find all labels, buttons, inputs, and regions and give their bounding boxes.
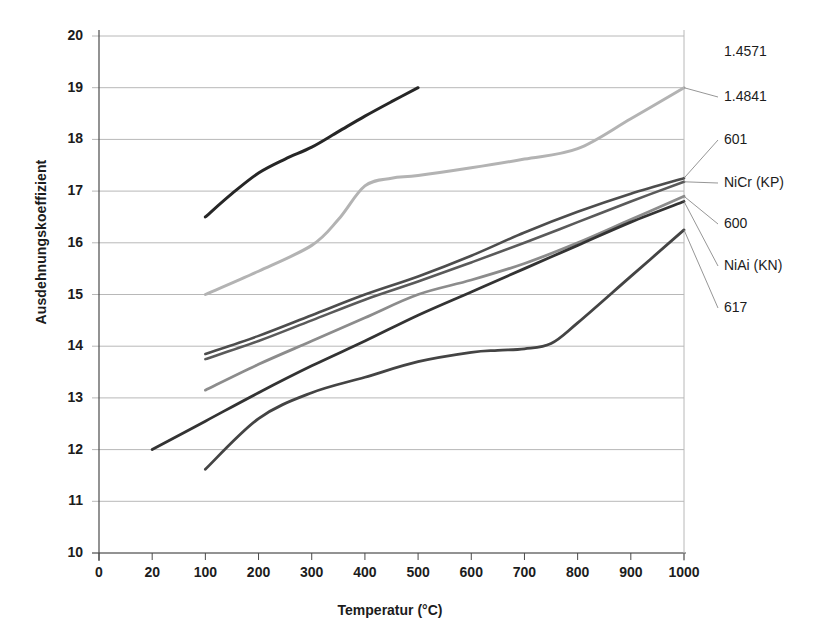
- leader-line: [684, 196, 718, 224]
- series-label-niai-kn: NiAi (KN): [724, 257, 782, 273]
- y-tick-label: 12: [43, 441, 83, 457]
- x-tick-label: 100: [175, 564, 235, 580]
- series-line-601: [205, 178, 684, 354]
- y-tick-label: 20: [43, 27, 83, 43]
- x-tick-label: 400: [335, 564, 395, 580]
- y-tick-label: 13: [43, 389, 83, 405]
- series-line-nicr-kp: [205, 182, 684, 359]
- gridlines: [92, 36, 684, 553]
- leader-line: [684, 230, 718, 308]
- series-label-1-4571: 1.4571: [724, 43, 767, 59]
- y-tick-label: 19: [43, 79, 83, 95]
- y-tick-label: 16: [43, 234, 83, 250]
- axis-lines: [92, 30, 686, 561]
- leader-line: [684, 201, 718, 266]
- x-tick-label: 1000: [654, 564, 714, 580]
- leader-line: [684, 182, 718, 183]
- series-label-1-4841: 1.4841: [724, 88, 767, 104]
- series-line-niai-kn: [152, 201, 684, 449]
- series-label-601: 601: [724, 131, 747, 147]
- x-tick-label: 900: [601, 564, 661, 580]
- series-label-600: 600: [724, 215, 747, 231]
- x-axis-title: Temperatur (°C): [180, 602, 600, 618]
- chart-root: Ausdehnungskoeffizient Temperatur (°C) 1…: [0, 0, 822, 642]
- data-series-group: [152, 88, 684, 470]
- x-tick-label: 300: [282, 564, 342, 580]
- y-tick-label: 17: [43, 182, 83, 198]
- leader-line: [684, 88, 718, 97]
- y-tick-label: 15: [43, 286, 83, 302]
- series-line-1-4571: [205, 88, 418, 217]
- x-tick-label: 600: [441, 564, 501, 580]
- x-tick-label: 800: [548, 564, 608, 580]
- x-tick-label: 500: [388, 564, 448, 580]
- y-tick-label: 10: [43, 544, 83, 560]
- series-label-nicr-kp: NiCr (KP): [724, 174, 784, 190]
- series-label-617: 617: [724, 299, 747, 315]
- x-tick-label: 20: [122, 564, 182, 580]
- x-tick-label: 700: [494, 564, 554, 580]
- x-tick-label: 0: [69, 564, 129, 580]
- x-tick-label: 200: [229, 564, 289, 580]
- y-tick-label: 18: [43, 130, 83, 146]
- callout-leader-lines: [684, 88, 718, 308]
- y-tick-label: 14: [43, 337, 83, 353]
- y-tick-label: 11: [43, 492, 83, 508]
- chart-plot-area: [0, 0, 822, 642]
- leader-line: [684, 140, 718, 178]
